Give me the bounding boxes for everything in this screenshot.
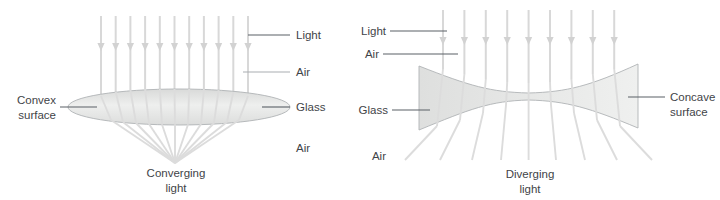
convex-surface-label-line1: Convex — [17, 94, 56, 106]
concave-glass-label: Glass — [359, 104, 389, 116]
convex-incoming-rays — [97, 16, 251, 96]
concave-light-label: Light — [361, 25, 387, 37]
concave-caption-line1: Diverging — [506, 168, 555, 180]
convex-glass-label: Glass — [296, 101, 326, 113]
convex-air-top-label: Air — [296, 66, 310, 78]
concave-incoming-rays — [439, 10, 617, 83]
concave-surface-label-line2: surface — [670, 106, 708, 118]
convex-ray-arrowheads — [97, 43, 251, 51]
convex-light-label: Light — [296, 29, 322, 41]
concave-surface-label-line1: Concave — [670, 91, 715, 103]
convex-lens-body — [68, 89, 290, 125]
convex-air-bottom-label: Air — [296, 142, 310, 154]
figure-canvas: Convex surface Light Air Glass Air Conve… — [0, 0, 720, 200]
concave-air-bottom-label: Air — [372, 150, 386, 162]
concave-caption-line2: light — [519, 183, 541, 195]
panel-concave: Light Air Glass Air Concave surface Dive… — [359, 10, 716, 195]
panel-convex: Convex surface Light Air Glass Air Conve… — [17, 16, 326, 194]
concave-ray-arrowheads — [439, 37, 617, 45]
concave-air-top-label: Air — [365, 48, 379, 60]
convex-converging-rays — [111, 120, 239, 163]
convex-caption-line1: Converging — [147, 167, 206, 179]
optics-refraction-figure: Convex surface Light Air Glass Air Conve… — [0, 0, 720, 200]
convex-caption-line2: light — [165, 182, 187, 194]
convex-surface-label-line2: surface — [18, 109, 56, 121]
